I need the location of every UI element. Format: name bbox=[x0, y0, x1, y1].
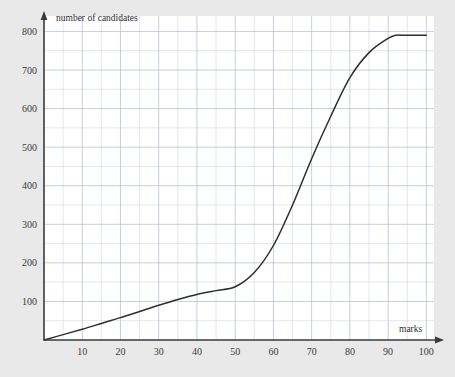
y-axis-tick-label: 700 bbox=[22, 65, 37, 76]
x-axis-tick-label: 100 bbox=[419, 346, 434, 357]
x-axis-tick-label: 10 bbox=[77, 346, 87, 357]
y-axis-tick-label: 400 bbox=[22, 180, 37, 191]
y-axis-tick-label: 300 bbox=[22, 219, 37, 230]
y-axis-tick-label: 800 bbox=[22, 26, 37, 37]
x-axis-tick-label: 40 bbox=[192, 346, 202, 357]
y-axis-label: number of candidates bbox=[56, 13, 138, 23]
x-axis-tick-label: 80 bbox=[345, 346, 355, 357]
cumulative-frequency-chart: 100200300400500600700800 102030405060708… bbox=[0, 0, 455, 377]
chart-canvas: 100200300400500600700800 102030405060708… bbox=[0, 0, 455, 377]
y-axis-tick-label: 100 bbox=[22, 296, 37, 307]
x-axis-label: marks bbox=[399, 324, 423, 334]
x-axis-tick-label: 90 bbox=[383, 346, 393, 357]
x-axis-tick-label: 30 bbox=[154, 346, 164, 357]
y-axis-tick-label: 500 bbox=[22, 142, 37, 153]
x-axis-tick-label: 60 bbox=[268, 346, 278, 357]
y-axis-tick-label: 600 bbox=[22, 103, 37, 114]
x-axis-tick-label: 50 bbox=[230, 346, 240, 357]
plot-area-background bbox=[44, 16, 434, 340]
y-axis-tick-label: 200 bbox=[22, 257, 37, 268]
x-axis-tick-label: 70 bbox=[307, 346, 317, 357]
x-axis-tick-label: 20 bbox=[115, 346, 125, 357]
